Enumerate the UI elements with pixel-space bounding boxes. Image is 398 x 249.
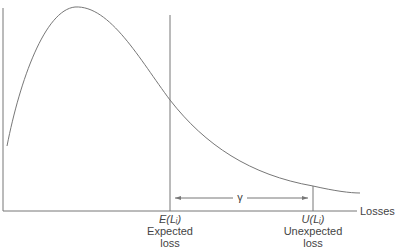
loss-density-curve [7,7,360,193]
expected-line2: loss [140,237,200,249]
expected-symbol: E(Lᵢ) [140,213,200,225]
unexpected-loss-label: U(Lᵢ) Unexpected loss [278,213,348,249]
expected-line1: Expected [140,225,200,237]
unexpected-line2: loss [278,237,348,249]
arrowhead-left-icon [175,196,181,200]
gamma-label: γ [234,191,246,203]
x-axis-label: Losses [360,205,395,217]
expected-loss-label: E(Lᵢ) Expected loss [140,213,200,249]
unexpected-line1: Unexpected [278,225,348,237]
arrowhead-right-icon [302,196,308,200]
unexpected-symbol: U(Lᵢ) [278,213,348,225]
